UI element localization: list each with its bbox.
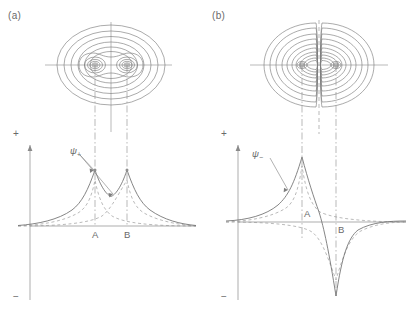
peak-marker-b [126,169,129,172]
contour-map-bonding [45,22,172,132]
psi-plus-label: ψ+ [70,145,81,158]
psi-minus-curve [226,157,406,296]
axis-minus-label-a: − [13,291,19,302]
nucleus-label-a1: A [92,229,98,240]
axis-plus-label-a: + [13,128,19,139]
panel-b-graphics [208,0,416,317]
psi-minus-label: ψ− [252,148,263,161]
psi-plus-leader [80,155,113,197]
psi-plus-symbol: ψ [70,145,77,156]
wavefunction-axes-a [28,145,196,300]
panel-a-graphics [0,0,208,317]
nucleus-label-a2: A [304,208,310,219]
psi-minus-symbol: ψ [252,148,259,159]
axis-minus-label-b: − [221,291,227,302]
psi-plus-subscript: + [77,151,81,158]
nucleus-label-b1: B [124,229,130,240]
psi-minus-subscript: − [259,154,263,161]
psi-minus-leader [270,158,288,192]
atomic-orbital-a-curve [226,166,406,222]
nucleus-label-b2: B [338,224,344,235]
atomic-orbital-b-curve [226,222,406,280]
axis-plus-label-b: + [221,128,227,139]
contour-map-antibonding [250,20,388,134]
psi-plus-curve [18,170,196,226]
figure-root: (a) [0,0,416,317]
